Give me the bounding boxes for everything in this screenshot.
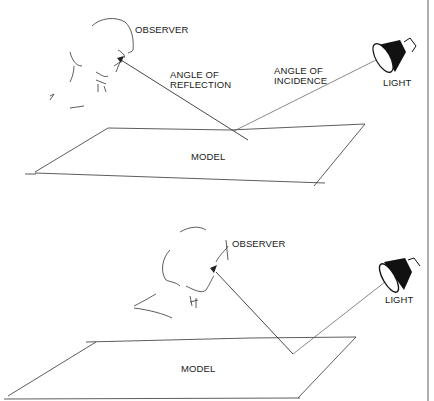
bottom-eye-icon <box>210 265 217 273</box>
bottom-incidence-ray <box>293 278 390 354</box>
top-observer-label: OBSERVER <box>135 25 188 35</box>
diagram-canvas <box>0 0 434 401</box>
bottom-lamp-icon <box>376 258 420 295</box>
top-reflection-label-line2: REFLECTION <box>170 80 231 90</box>
top-light-label: LIGHT <box>383 78 411 88</box>
top-model-label: MODEL <box>191 152 225 162</box>
top-lamp-icon <box>369 38 416 75</box>
top-incidence-label-line2: INCIDENCE <box>274 76 327 86</box>
bottom-reflection-ray <box>216 272 293 354</box>
top-eye-icon <box>117 56 124 63</box>
top-observer-head-icon <box>50 19 133 108</box>
bottom-observer-label: OBSERVER <box>232 239 285 249</box>
bottom-model-label: MODEL <box>181 364 215 374</box>
bottom-light-label: LIGHT <box>385 295 413 305</box>
